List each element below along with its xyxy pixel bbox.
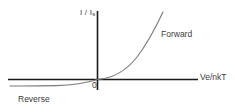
origin-label: 0 [92,81,97,90]
y-axis-label-subscript: s [92,11,95,17]
forward-annotation-label: Forward [161,30,192,39]
y-axis-label-main: I / I [80,8,92,17]
reverse-annotation-label: Reverse [18,95,50,104]
x-axis-label: Ve/nkT [200,73,226,82]
y-axis-label: I / Is [80,9,95,17]
forward-curve [98,12,164,80]
reverse-curve [10,80,98,87]
diode-iv-characteristic-figure: I / Is Ve/nkT Forward Reverse 0 [0,0,235,112]
